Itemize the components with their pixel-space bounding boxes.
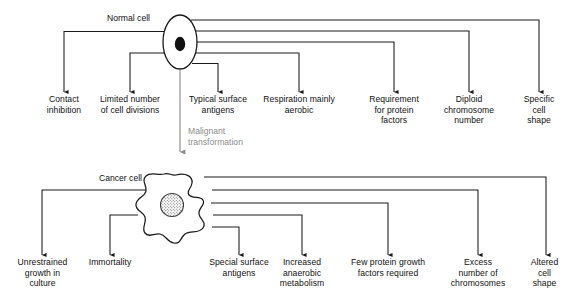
label-malignant-transformation: Malignant transformation	[188, 126, 284, 148]
label-specific-shape: Specific cell shape	[507, 94, 571, 126]
connector-protein-factors	[194, 42, 394, 92]
connector-diploid-chromosomes	[193, 31, 469, 92]
label-few-growth-factors: Few protein growth factors required	[331, 257, 445, 278]
connector-unrestrained-growth	[42, 190, 150, 255]
label-immortality: Immortality	[74, 257, 146, 268]
connector-contact-inhibition	[64, 32, 167, 93]
cell-comparison-diagram: Normal cell Contact inhibition Limited n…	[0, 0, 574, 302]
connector-excess-chromosomes	[212, 190, 478, 255]
connector-few-growth-factors	[211, 203, 388, 255]
connector-immortality	[110, 215, 138, 255]
normal-cell-nucleus	[175, 37, 185, 51]
label-diploid-chromosomes: Diploid chromosome number	[427, 94, 511, 126]
connector-anaerobic-metabolism	[213, 215, 302, 255]
connector-typical-antigens	[192, 64, 218, 93]
label-altered-shape: Altered cell shape	[515, 257, 574, 289]
label-unrestrained-growth: Unrestrained growth in culture	[0, 257, 85, 289]
connector-special-antigens	[212, 227, 239, 255]
connector-limited-divisions	[130, 53, 172, 92]
cancer-cell-nucleus	[161, 194, 184, 217]
normal-cell-label: Normal cell	[107, 13, 150, 24]
label-limited-divisions: Limited number of cell divisions	[83, 94, 177, 115]
label-respiration-aerobic: Respiration mainly aerobic	[249, 94, 349, 115]
label-protein-factors: Requirement for protein factors	[352, 94, 436, 126]
connector-altered-shape	[204, 177, 546, 255]
connector-respiration-aerobic	[193, 53, 299, 92]
label-excess-chromosomes: Excess number of chromosomes	[434, 257, 522, 289]
cancer-cell-label: Cancer cell	[99, 173, 142, 184]
